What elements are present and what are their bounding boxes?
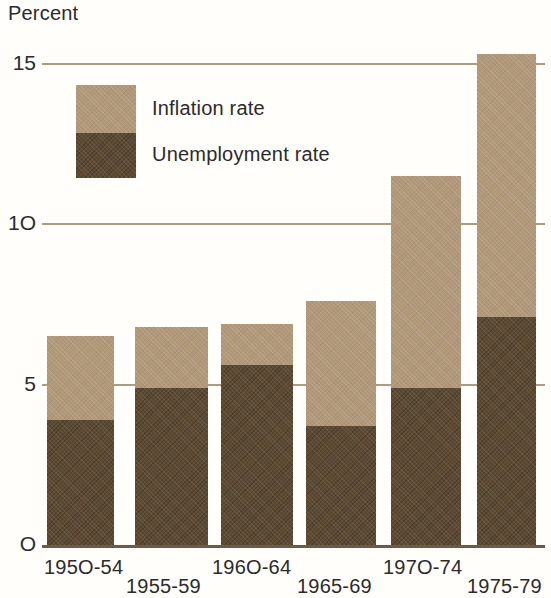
legend-swatch-unemployment-rate bbox=[76, 133, 136, 178]
bar-group-1975-79 bbox=[477, 54, 536, 545]
bar-group-1955-59 bbox=[135, 327, 208, 545]
legend-label-inflation-rate: Inflation rate bbox=[152, 97, 265, 120]
bar-segment-inflation-1955-59 bbox=[135, 327, 208, 388]
x-axis-tick-label-1955-59: 1955-59 bbox=[126, 575, 201, 598]
x-axis-tick-label-1970-74: 197O-74 bbox=[383, 556, 462, 579]
bar-segment-unemployment-1965-69 bbox=[306, 426, 376, 545]
bar-segment-inflation-1970-74 bbox=[391, 176, 461, 388]
bar-segment-unemployment-1955-59 bbox=[135, 388, 208, 545]
bar-group-1950-54 bbox=[47, 336, 114, 545]
bar-segment-inflation-1965-69 bbox=[306, 301, 376, 426]
y-axis-title: Percent bbox=[8, 2, 78, 25]
legend-label-unemployment-rate: Unemployment rate bbox=[152, 143, 330, 166]
y-axis-tick-label-10: 1O bbox=[8, 212, 36, 233]
y-axis-tick-10: 1O bbox=[0, 212, 36, 234]
bar-group-1960-64 bbox=[221, 324, 293, 545]
y-axis-tick-label-15: 15 bbox=[13, 52, 36, 73]
gridline-10 bbox=[42, 223, 545, 225]
axis-baseline bbox=[42, 545, 545, 548]
bar-segment-inflation-1950-54 bbox=[47, 336, 114, 419]
bar-group-1970-74 bbox=[391, 176, 461, 545]
x-axis-tick-label-1965-69: 1965-69 bbox=[297, 575, 372, 598]
legend-swatch-inflation-rate bbox=[76, 85, 136, 133]
y-axis-tick-0: O bbox=[0, 533, 36, 555]
x-axis-tick-label-1975-79: 1975-79 bbox=[467, 575, 542, 598]
gridline-5 bbox=[42, 384, 545, 386]
bar-segment-inflation-1960-64 bbox=[221, 324, 293, 366]
bar-segment-unemployment-1970-74 bbox=[391, 388, 461, 545]
gridline-15 bbox=[42, 63, 545, 65]
bar-segment-unemployment-1960-64 bbox=[221, 365, 293, 545]
y-axis-tick-label-0: O bbox=[20, 533, 36, 554]
bar-segment-unemployment-1950-54 bbox=[47, 420, 114, 545]
y-axis-tick-label-5: 5 bbox=[24, 373, 36, 394]
chart-container: Percent O51O15 195O-541955-59196O-641965… bbox=[0, 0, 551, 598]
y-axis-tick-5: 5 bbox=[0, 373, 36, 395]
bar-segment-unemployment-1975-79 bbox=[477, 317, 536, 545]
x-axis-tick-label-1950-54: 195O-54 bbox=[44, 556, 123, 579]
bar-group-1965-69 bbox=[306, 301, 376, 545]
y-axis-tick-15: 15 bbox=[0, 52, 36, 74]
x-axis-tick-label-1960-64: 196O-64 bbox=[212, 556, 291, 579]
bar-segment-inflation-1975-79 bbox=[477, 54, 536, 317]
